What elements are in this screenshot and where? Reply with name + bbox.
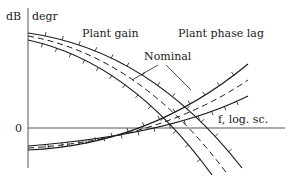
series-tick bbox=[121, 135, 122, 139]
series-tick bbox=[138, 131, 139, 135]
series-tick bbox=[86, 140, 87, 144]
y-axis-label-db: dB bbox=[6, 10, 21, 23]
series-tick bbox=[229, 149, 232, 152]
series-line-2 bbox=[28, 36, 228, 175]
series-tick bbox=[55, 48, 56, 52]
annotation-nominal: Nominal bbox=[144, 50, 192, 63]
series-tick bbox=[158, 116, 160, 120]
series-tick bbox=[197, 159, 200, 161]
series-tick bbox=[148, 106, 151, 109]
series-tick bbox=[158, 82, 160, 85]
series-tick bbox=[41, 44, 42, 48]
series-tick bbox=[173, 109, 175, 113]
series-tick bbox=[69, 54, 71, 58]
series-tick bbox=[111, 54, 113, 58]
bode-diagram: dB degr 0 f, log. sc. Plant gain Plant p… bbox=[0, 0, 293, 181]
series-tick bbox=[201, 119, 204, 122]
annotation-plant-gain: Plant gain bbox=[82, 27, 139, 40]
x-axis-label: f, log. sc. bbox=[218, 113, 268, 126]
series-tick bbox=[110, 76, 112, 79]
series-tick bbox=[237, 101, 239, 105]
series-tick bbox=[127, 63, 129, 67]
series-line-6 bbox=[28, 96, 248, 146]
nominal-leader-gain bbox=[132, 65, 158, 80]
series-tick bbox=[83, 60, 85, 64]
series-tick bbox=[215, 134, 218, 137]
series-tick bbox=[79, 41, 80, 45]
series-tick bbox=[62, 36, 63, 40]
series-tick bbox=[143, 122, 144, 126]
zero-label: 0 bbox=[15, 122, 22, 135]
series-tick bbox=[217, 82, 219, 85]
series-tick bbox=[123, 85, 125, 88]
series-tick bbox=[127, 128, 128, 132]
series-tick bbox=[188, 101, 190, 104]
series-tick bbox=[45, 32, 46, 36]
series-tick bbox=[212, 111, 213, 115]
annotation-plant-phase-lag: Plant phase lag bbox=[178, 27, 264, 40]
series-line-5 bbox=[28, 80, 248, 148]
series-tick bbox=[185, 145, 188, 148]
series-tick bbox=[203, 92, 205, 95]
series-tick bbox=[224, 107, 225, 111]
y-axis-label-degr: degr bbox=[32, 10, 59, 23]
series-tick bbox=[154, 128, 155, 132]
nominal-leader-phase bbox=[166, 65, 191, 90]
series-tick bbox=[96, 67, 98, 70]
series-tick bbox=[172, 93, 174, 96]
series-tick bbox=[173, 131, 176, 134]
series-tick bbox=[231, 72, 233, 75]
series-tick bbox=[136, 95, 139, 98]
series-tick bbox=[187, 106, 190, 109]
series-tick bbox=[104, 137, 105, 141]
series-tick bbox=[95, 47, 96, 51]
